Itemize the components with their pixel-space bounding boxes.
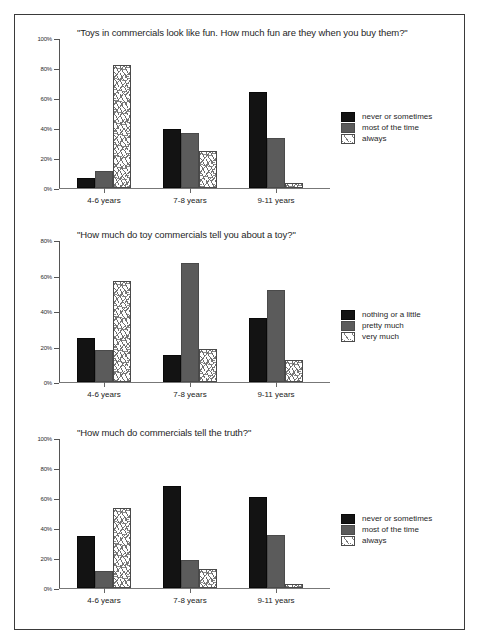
legend-3: never or sometimesmost of the timealways xyxy=(341,513,471,546)
legend-swatch-icon xyxy=(341,525,355,535)
x-axis-2 xyxy=(59,382,330,383)
legend-label: most of the time xyxy=(362,525,419,534)
bar-9-11-years-most-of-the-time xyxy=(267,535,285,588)
y-axis-tick xyxy=(54,277,59,278)
y-axis-3 xyxy=(59,439,60,589)
y-axis-tick xyxy=(54,241,59,242)
y-axis-tick-label: 40% xyxy=(41,126,52,132)
x-axis-category-label: 7-8 years xyxy=(173,390,206,399)
legend-label: never or sometimes xyxy=(362,112,432,121)
chart-title-1: "Toys in commercials look like fun. How … xyxy=(77,27,408,38)
bar-7-8-years-very-much xyxy=(199,349,217,382)
bar-set xyxy=(163,240,217,382)
y-axis-tick xyxy=(54,383,59,384)
bar-7-8-years-nothing-or-a-little xyxy=(163,355,181,382)
y-axis-tick xyxy=(54,189,59,190)
y-axis-tick xyxy=(54,348,59,349)
x-axis-tick xyxy=(104,188,105,193)
x-axis-tick xyxy=(190,188,191,193)
legend-label: very much xyxy=(362,332,399,341)
y-axis-tick-label: 0% xyxy=(44,186,52,192)
bar-9-11-years-always xyxy=(285,183,303,188)
y-axis-tick-label: 100% xyxy=(37,36,52,42)
plot-area-1: 0%20%40%60%80%100%4-6 years7-8 years9-11… xyxy=(59,39,324,189)
y-axis-tick xyxy=(54,529,59,530)
bar-set xyxy=(249,438,303,588)
legend-label: always xyxy=(362,536,386,545)
y-axis-tick xyxy=(54,39,59,40)
x-axis-tick xyxy=(276,188,277,193)
y-axis-tick-label: 40% xyxy=(41,526,52,532)
legend-swatch-icon xyxy=(341,123,355,133)
bar-9-11-years-never-or-sometimes xyxy=(249,92,267,188)
x-axis-category-label: 4-6 years xyxy=(87,196,120,205)
legend-item: never or sometimes xyxy=(341,111,471,122)
legend-item: nothing or a little xyxy=(341,309,471,320)
x-axis-3 xyxy=(59,588,330,589)
bar-set xyxy=(77,240,131,382)
bar-set xyxy=(163,438,217,588)
bar-7-8-years-never-or-sometimes xyxy=(163,486,181,588)
x-axis-tick xyxy=(190,588,191,593)
chart-panel-1: "Toys in commercials look like fun. How … xyxy=(15,21,466,221)
bar-7-8-years-never-or-sometimes xyxy=(163,129,181,188)
bar-set xyxy=(77,438,131,588)
x-axis-category-label: 9-11 years xyxy=(257,196,294,205)
bar-4-6-years-always xyxy=(113,65,131,188)
bar-7-8-years-most-of-the-time xyxy=(181,133,199,188)
bar-9-11-years-pretty-much xyxy=(267,290,285,382)
legend-2: nothing or a littlepretty muchvery much xyxy=(341,309,471,342)
x-axis-category-label: 4-6 years xyxy=(87,596,120,605)
y-axis-tick xyxy=(54,129,59,130)
x-axis-tick xyxy=(190,382,191,387)
y-axis-2 xyxy=(59,241,60,383)
bar-4-6-years-very-much xyxy=(113,281,131,382)
x-axis-tick xyxy=(276,382,277,387)
bar-4-6-years-never-or-sometimes xyxy=(77,178,95,189)
y-axis-tick-label: 60% xyxy=(41,496,52,502)
legend-label: nothing or a little xyxy=(362,310,421,319)
x-axis-category-label: 9-11 years xyxy=(257,596,294,605)
bar-set xyxy=(249,38,303,188)
x-axis-category-label: 7-8 years xyxy=(173,596,206,605)
legend-swatch-icon xyxy=(341,321,355,331)
legend-label: pretty much xyxy=(362,321,404,330)
bar-9-11-years-never-or-sometimes xyxy=(249,497,267,588)
y-axis-tick xyxy=(54,159,59,160)
y-axis-tick xyxy=(54,499,59,500)
legend-1: never or sometimesmost of the timealways xyxy=(341,111,471,144)
legend-item: most of the time xyxy=(341,122,471,133)
bar-7-8-years-most-of-the-time xyxy=(181,560,199,588)
bar-set xyxy=(249,240,303,382)
legend-label: most of the time xyxy=(362,123,419,132)
y-axis-tick-label: 60% xyxy=(41,274,52,280)
legend-swatch-icon xyxy=(341,536,355,546)
bar-7-8-years-always xyxy=(199,151,217,188)
chart-panel-2: "How much do toy commercials tell you ab… xyxy=(15,227,466,417)
x-axis-category-label: 7-8 years xyxy=(173,196,206,205)
legend-item: most of the time xyxy=(341,524,471,535)
chart-title-3: "How much do commercials tell the truth?… xyxy=(77,427,251,438)
chart-panel-3: "How much do commercials tell the truth?… xyxy=(15,421,466,626)
y-axis-tick-label: 40% xyxy=(41,309,52,315)
legend-item: never or sometimes xyxy=(341,513,471,524)
bar-4-6-years-never-or-sometimes xyxy=(77,536,95,589)
bar-set xyxy=(163,38,217,188)
legend-label: never or sometimes xyxy=(362,514,432,523)
y-axis-tick xyxy=(54,69,59,70)
y-axis-tick-label: 80% xyxy=(41,66,52,72)
y-axis-tick xyxy=(54,469,59,470)
bar-7-8-years-always xyxy=(199,569,217,588)
bar-4-6-years-most-of-the-time xyxy=(95,571,113,588)
bar-4-6-years-most-of-the-time xyxy=(95,171,113,188)
x-axis-tick xyxy=(104,588,105,593)
legend-label: always xyxy=(362,134,386,143)
y-axis-tick-label: 80% xyxy=(41,238,52,244)
plot-area-2: 0%20%40%60%80%4-6 years7-8 years9-11 yea… xyxy=(59,241,324,383)
bar-9-11-years-most-of-the-time xyxy=(267,138,285,188)
bar-4-6-years-nothing-or-a-little xyxy=(77,338,95,382)
legend-swatch-icon xyxy=(341,112,355,122)
legend-item: always xyxy=(341,133,471,144)
bar-9-11-years-nothing-or-a-little xyxy=(249,318,267,382)
y-axis-tick-label: 100% xyxy=(37,436,52,442)
